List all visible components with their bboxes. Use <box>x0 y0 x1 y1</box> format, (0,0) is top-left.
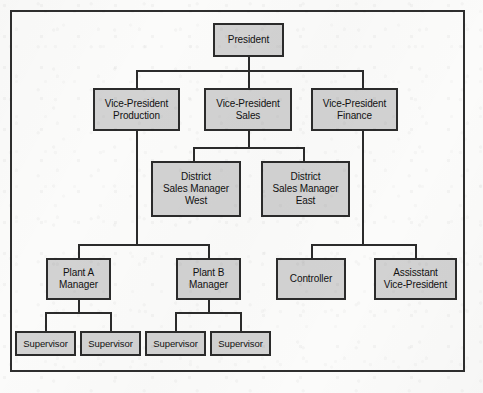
edge-district-bus <box>193 147 305 149</box>
node-supervisor-a1-label: Supervisor <box>17 338 74 349</box>
node-supervisor-b1-label: Supervisor <box>147 338 204 349</box>
edge-vpproduction-stem <box>136 131 138 244</box>
edge-drop-plant-b <box>208 244 210 258</box>
edge-president-bus <box>136 70 364 72</box>
node-vp-finance[interactable]: Vice-President Finance <box>311 88 398 131</box>
edge-president-stem <box>248 57 250 71</box>
edge-plant-a-stem <box>78 300 80 312</box>
node-president-label: President <box>215 34 282 46</box>
node-supervisor-a1[interactable]: Supervisor <box>15 331 76 356</box>
node-vp-production-label: Vice-President Production <box>95 98 178 122</box>
edge-drop-supervisor-b2 <box>240 312 242 331</box>
node-supervisor-b1[interactable]: Supervisor <box>145 331 206 356</box>
edge-drop-vp-finance <box>362 70 364 88</box>
node-vp-finance-label: Vice-President Finance <box>313 98 396 122</box>
node-dsm-east[interactable]: District Sales Manager East <box>261 161 350 217</box>
node-vp-production[interactable]: Vice-President Production <box>93 88 180 131</box>
edge-finance-bus <box>311 244 417 246</box>
edge-drop-asst-vp <box>415 244 417 258</box>
edge-drop-plant-a <box>78 244 80 258</box>
node-plant-b-manager[interactable]: Plant B Manager <box>176 258 241 300</box>
edge-drop-supervisor-a2 <box>110 312 112 331</box>
edge-drop-supervisor-b1 <box>175 312 177 331</box>
node-supervisor-b2[interactable]: Supervisor <box>210 331 271 356</box>
edge-drop-controller <box>311 244 313 258</box>
node-assistant-vice-president[interactable]: Assisstant Vice-President <box>374 258 457 300</box>
edge-plant-b-bus <box>175 312 242 314</box>
edge-plant-a-bus <box>45 312 112 314</box>
node-dsm-east-label: District Sales Manager East <box>263 171 348 206</box>
edge-drop-dsm-east <box>303 147 305 161</box>
node-vp-sales[interactable]: Vice-President Sales <box>204 88 292 131</box>
edge-plant-b-stem <box>208 300 210 312</box>
org-chart-page: President Vice-President Production Vice… <box>0 0 483 393</box>
edge-drop-vp-production <box>136 70 138 88</box>
node-plant-a-manager-label: Plant A Manager <box>48 267 109 291</box>
node-president[interactable]: President <box>213 23 284 57</box>
node-assistant-vice-president-label: Assisstant Vice-President <box>376 267 455 291</box>
node-supervisor-a2[interactable]: Supervisor <box>80 331 141 356</box>
node-controller[interactable]: Controller <box>276 258 346 300</box>
edge-drop-dsm-west <box>193 147 195 161</box>
node-vp-sales-label: Vice-President Sales <box>206 98 290 122</box>
node-supervisor-b2-label: Supervisor <box>212 338 269 349</box>
edge-vpsales-stem <box>248 131 250 147</box>
node-plant-b-manager-label: Plant B Manager <box>178 267 239 291</box>
edge-plant-bus <box>78 244 210 246</box>
node-controller-label: Controller <box>278 273 344 285</box>
edge-drop-supervisor-a1 <box>45 312 47 331</box>
node-dsm-west-label: District Sales Manager West <box>153 171 239 206</box>
edge-drop-vp-sales <box>248 70 250 88</box>
node-plant-a-manager[interactable]: Plant A Manager <box>46 258 111 300</box>
edge-vpfinance-stem <box>362 131 364 244</box>
node-dsm-west[interactable]: District Sales Manager West <box>151 161 241 217</box>
node-supervisor-a2-label: Supervisor <box>82 338 139 349</box>
